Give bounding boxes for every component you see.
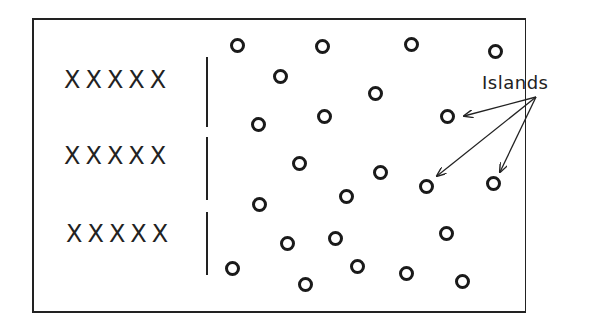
arrow-icon	[464, 97, 536, 116]
arrow-icon	[437, 97, 536, 176]
arrow-icon	[500, 97, 536, 172]
arrows	[0, 0, 590, 328]
